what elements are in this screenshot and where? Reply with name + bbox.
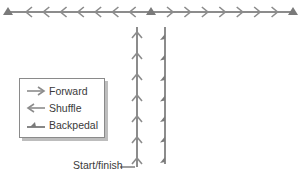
legend: Forward Shuffle Backpedal (19, 78, 105, 138)
backpedal-barb-icon (160, 96, 165, 102)
backpedal-barb-icon (160, 34, 165, 40)
backpedal-barb-icon (160, 75, 165, 81)
vertical-lines (132, 27, 165, 167)
start-finish-label: Start/finish (73, 159, 123, 171)
backpedal-barb-icon (26, 119, 46, 131)
legend-item-shuffle: Shuffle (26, 100, 82, 116)
shuffle-arrow-icon (26, 102, 46, 114)
legend-item-backpedal: Backpedal (26, 117, 98, 133)
backpedal-barb-icon (160, 116, 165, 122)
backpedal-barb-icon (160, 55, 165, 61)
legend-item-forward: Forward (26, 83, 88, 99)
legend-label-backpedal: Backpedal (49, 119, 98, 131)
legend-label-forward: Forward (49, 85, 88, 97)
legend-label-shuffle: Shuffle (49, 102, 82, 114)
forward-arrow-icon (26, 85, 46, 97)
